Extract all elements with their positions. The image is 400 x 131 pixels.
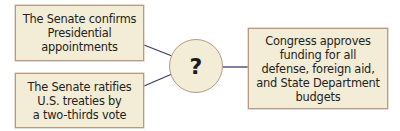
senate-ratifies-box: The Senate ratifies U.S. treaties by a t… bbox=[15, 73, 144, 128]
senate-confirms-text: The Senate confirms Presidential appoint… bbox=[23, 12, 137, 54]
congress-funding-box: Congress approves funding for all defens… bbox=[248, 28, 388, 109]
senate-confirms-box: The Senate confirms Presidential appoint… bbox=[15, 5, 144, 61]
connector-top-left bbox=[144, 45, 172, 56]
question-mark: ? bbox=[190, 54, 203, 79]
question-circle: ? bbox=[169, 39, 223, 93]
connector-bottom-left bbox=[144, 74, 172, 86]
congress-funding-text: Congress approves funding for all defens… bbox=[256, 34, 380, 104]
senate-ratifies-text: The Senate ratifies U.S. treaties by a t… bbox=[28, 80, 132, 122]
